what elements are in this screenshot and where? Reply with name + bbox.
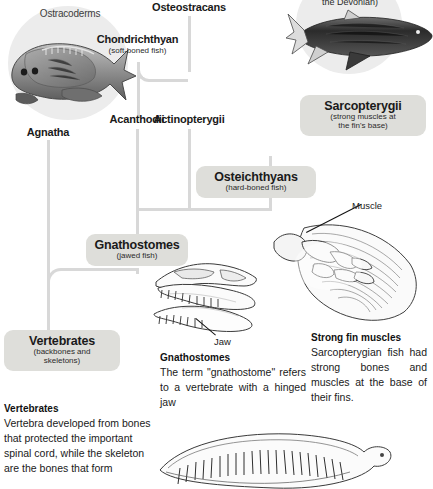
vertebral-column-art [150, 424, 400, 489]
node-vertebrates-label: Vertebrates [12, 334, 112, 348]
devonian-partial-label: the Devonian) [304, 0, 396, 7]
node-actinopterygii-label: Actinopterygii [143, 113, 235, 126]
node-chondrichthyan[interactable]: Chondrichthyan (soft-boned fish) [80, 33, 195, 55]
node-vertebrates-sub: (backbones and skeletons) [12, 348, 112, 366]
node-osteichthyans-sub: (hard-boned fish) [204, 184, 308, 193]
node-ostracoderms[interactable]: Ostracoderms [20, 8, 120, 20]
callout-muscle-label: Muscle [352, 200, 382, 211]
callout-jaw-label: Jaw [214, 336, 231, 347]
caption-strong-fin-muscles-heading: Strong fin muscles [311, 332, 427, 343]
node-sarcopterygii-sub: (strong muscles at the fin's base) [308, 113, 418, 131]
node-chondrichthyan-sub: (soft-boned fish) [80, 46, 195, 55]
connector-osteostracans-elbow [137, 62, 188, 82]
callout-jaw: Jaw [214, 336, 231, 347]
node-gnathostomes-label: Gnathostomes [94, 238, 180, 252]
connector-actinopterygii [188, 129, 191, 211]
connector-gnathostomes-stem [136, 268, 139, 274]
node-sarcopterygii[interactable]: Sarcopterygii (strong muscles at the fin… [300, 95, 426, 136]
caption-vertebrates: Vertebrates Vertebra developed from bone… [4, 403, 154, 476]
connector-acanthodii [136, 129, 139, 211]
caption-gnathostomes-heading: Gnathostomes [160, 352, 306, 363]
node-gnathostomes[interactable]: Gnathostomes (jawed fish) [86, 234, 188, 266]
node-osteostracans[interactable]: Osteostracans [138, 1, 240, 14]
caption-strong-fin-muscles: Strong fin muscles Sarcopterygian fish h… [311, 332, 427, 405]
node-gnathostomes-sub: (jawed fish) [94, 252, 180, 261]
node-osteostracans-label: Osteostracans [138, 1, 240, 14]
devonian-partial-text: the Devonian) [304, 0, 396, 7]
caption-strong-fin-muscles-body: Sarcopterygian fish had strong bones and… [311, 345, 427, 405]
node-agnatha[interactable]: Agnatha [10, 126, 86, 139]
placoderm-fish-art [286, 10, 433, 72]
node-osteichthyans-label: Osteichthyans [204, 170, 308, 184]
connector-chondrichthyan [137, 72, 140, 118]
lobe-fin-art [268, 208, 428, 330]
node-vertebrates[interactable]: Vertebrates (backbones and skeletons) [4, 330, 120, 371]
callout-muscle: Muscle [352, 200, 382, 211]
connector-osteichthyans-bar [137, 208, 272, 211]
node-chondrichthyan-label: Chondrichthyan [80, 33, 195, 46]
cladogram-canvas: Ostracoderms Agnatha Acanthodii Chondric… [0, 0, 433, 489]
caption-gnathostomes-body: The term "gnathostome" refers to a verte… [160, 365, 306, 410]
caption-vertebrates-heading: Vertebrates [4, 403, 154, 414]
node-agnatha-label: Agnatha [10, 126, 86, 139]
node-ostracoderms-label: Ostracoderms [20, 8, 120, 20]
node-osteichthyans[interactable]: Osteichthyans (hard-boned fish) [196, 166, 316, 198]
node-sarcopterygii-label: Sarcopterygii [308, 99, 418, 113]
node-actinopterygii[interactable]: Actinopterygii [143, 113, 235, 126]
caption-vertebrates-body: Vertebra developed from bones that prote… [4, 416, 154, 476]
caption-gnathostomes: Gnathostomes The term "gnathostome" refe… [160, 352, 306, 410]
